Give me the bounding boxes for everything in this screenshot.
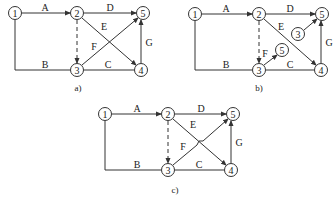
node-number: 1 — [13, 8, 18, 19]
event-node: 5 — [227, 108, 240, 121]
node-number: 3 — [296, 29, 301, 40]
diagram-b: ADEFGBC1253534b) — [189, 3, 333, 94]
node-number: 5 — [231, 109, 236, 120]
activity-label: G — [145, 37, 152, 48]
activity-label: B — [134, 159, 141, 170]
activity-label: D — [197, 103, 204, 114]
activity-label: C — [105, 59, 112, 70]
activity-label: F — [262, 48, 268, 59]
node-number: 3 — [257, 65, 262, 76]
activity-label: B — [42, 59, 49, 70]
event-node: 5 — [276, 44, 289, 57]
diagram-caption: a) — [75, 83, 82, 93]
node-number: 1 — [193, 9, 198, 20]
activity-label: A — [222, 3, 230, 14]
activity-label: C — [287, 59, 294, 70]
event-node: 3 — [162, 164, 175, 177]
activity-label: A — [41, 2, 49, 13]
event-node: 2 — [253, 8, 266, 21]
node-number: 4 — [319, 65, 324, 76]
activity-edge-unlabeled — [304, 19, 317, 30]
node-number: 5 — [280, 45, 285, 56]
event-node: 5 — [137, 7, 150, 20]
diagram-a: ADEFGBC12534a) — [9, 2, 153, 94]
event-node: 3 — [71, 64, 84, 77]
node-number: 4 — [229, 165, 234, 176]
activity-label: F — [91, 41, 97, 52]
activity-label: D — [106, 2, 113, 13]
node-number: 2 — [75, 8, 80, 19]
event-node: 4 — [225, 164, 238, 177]
event-node: 4 — [315, 64, 328, 77]
node-number: 2 — [257, 9, 262, 20]
activity-label: E — [190, 119, 196, 130]
event-node: 3 — [253, 64, 266, 77]
event-node: 2 — [71, 7, 84, 20]
event-node: 2 — [162, 108, 175, 121]
activity-label: D — [286, 3, 293, 14]
activity-label: E — [101, 21, 107, 32]
event-node: 1 — [189, 8, 202, 21]
activity-label: G — [325, 37, 332, 48]
node-number: 1 — [103, 109, 108, 120]
diagram-caption: c) — [172, 185, 179, 195]
event-node: 1 — [9, 7, 22, 20]
node-number: 2 — [166, 109, 171, 120]
activity-label: C — [196, 159, 203, 170]
node-number: 3 — [75, 65, 80, 76]
activity-label: G — [235, 137, 242, 148]
node-number: 3 — [166, 165, 171, 176]
node-number: 4 — [139, 65, 144, 76]
activity-label: B — [223, 59, 230, 70]
diagram-c: ADEFGBC12534c) — [99, 103, 243, 196]
network-diagrams-canvas: ADEFGBC12534a) ADEFGBC1253534b) ADEFGBC1… — [0, 0, 335, 201]
event-node: 4 — [135, 64, 148, 77]
event-node: 3 — [292, 28, 305, 41]
node-number: 5 — [141, 8, 146, 19]
activity-label: E — [278, 21, 284, 32]
node-number: 5 — [320, 9, 325, 20]
event-node: 5 — [316, 8, 329, 21]
activity-label: F — [180, 141, 186, 152]
diagram-caption: b) — [255, 83, 263, 93]
event-node: 1 — [99, 108, 112, 121]
activity-label: A — [133, 103, 141, 114]
